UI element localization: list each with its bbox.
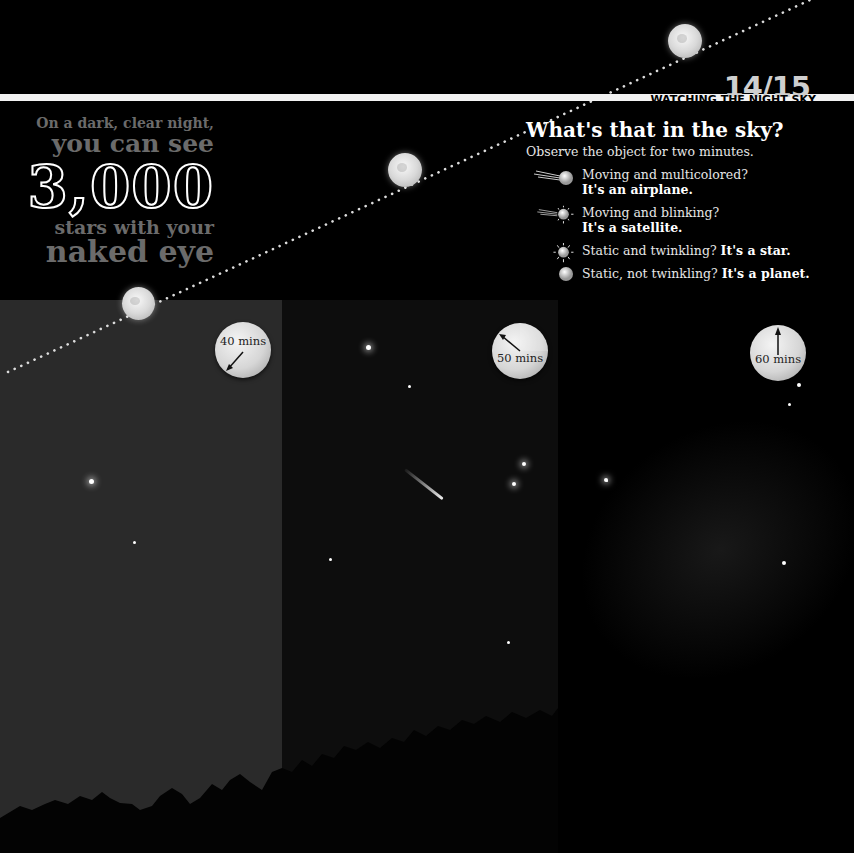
headline-line-1: On a dark, clear night, xyxy=(0,116,214,130)
timer-50-mins: 50 mins xyxy=(492,323,548,379)
guide-question: Static and twinkling? xyxy=(582,243,717,258)
milky-way xyxy=(514,352,854,749)
guide-answer: It's a satellite. xyxy=(582,220,682,235)
guide-answer: It's a star. xyxy=(721,243,791,258)
guide-item-planet: Static, not twinkling? It's a planet. xyxy=(526,266,854,281)
star xyxy=(408,385,411,388)
star xyxy=(797,383,801,387)
star xyxy=(89,479,94,484)
airplane-icon xyxy=(530,167,580,187)
guide-answer: It's an airplane. xyxy=(582,182,693,197)
guide-title: What's that in the sky? xyxy=(526,118,854,142)
guide-question: Static, not twinkling? xyxy=(582,266,718,281)
clock-hand-icon xyxy=(215,322,271,378)
guide-item-airplane: Moving and multicolored? It's an airplan… xyxy=(526,167,854,197)
star xyxy=(782,561,786,565)
planet-icon xyxy=(530,266,580,286)
star xyxy=(788,403,791,406)
moon-icon xyxy=(122,287,155,320)
guide-question: Moving and blinking? xyxy=(582,205,719,220)
timer-label: 50 mins xyxy=(492,351,548,365)
star xyxy=(522,462,526,466)
satellite-icon xyxy=(530,205,580,225)
guide-item-satellite: Moving and blinking? It's a satellite. xyxy=(526,205,854,235)
star xyxy=(366,345,371,350)
guide-subtitle: Observe the object for two minutes. xyxy=(526,144,854,159)
star xyxy=(507,641,510,644)
treeline-silhouette xyxy=(0,700,854,853)
star xyxy=(606,480,608,482)
guide-question: Moving and multicolored? xyxy=(582,167,748,182)
headline-number: 3,000 xyxy=(0,158,214,216)
star-icon xyxy=(530,243,580,263)
moon-icon xyxy=(668,24,702,58)
guide-list: Moving and multicolored? It's an airplan… xyxy=(526,167,854,281)
guide-answer: It's a planet. xyxy=(722,266,810,281)
star xyxy=(329,558,332,561)
identify-guide: What's that in the sky? Observe the obje… xyxy=(526,118,854,289)
section-title: WATCHING THE NIGHT SKY xyxy=(650,93,816,106)
moon-icon xyxy=(388,153,422,187)
headline-line-5: naked eye xyxy=(0,237,214,267)
star xyxy=(133,541,136,544)
timer-label: 60 mins xyxy=(750,352,806,366)
timer-label: 40 mins xyxy=(215,334,271,348)
headline: On a dark, clear night, you can see 3,00… xyxy=(0,116,214,267)
guide-item-star: Static and twinkling? It's a star. xyxy=(526,243,854,258)
timer-60-mins: 60 mins xyxy=(750,325,806,381)
star xyxy=(512,482,516,486)
timer-40-mins: 40 mins xyxy=(215,322,271,378)
